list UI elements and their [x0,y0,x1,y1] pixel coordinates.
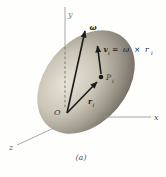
rotation-diagram: y x z O ω v i = ω × r i r i P i (a) [0,0,166,177]
point-p-dot [99,75,104,80]
velocity-equation: = ω × r [112,45,150,54]
point-p-label-subscript: i [112,78,114,84]
z-axis-label: z [8,143,14,152]
position-label-subscript: i [93,102,95,108]
velocity-label-subscript: i [108,50,110,56]
omega-label: ω [90,23,97,32]
x-axis-label: x [154,113,159,122]
point-p-label: P [105,73,112,82]
figure-caption: (a) [75,153,86,162]
figure-container: y x z O ω v i = ω × r i r i P i (a) [0,0,166,177]
y-axis-label: y [67,10,73,19]
velocity-equation-subscript: i [151,50,153,56]
origin-label: O [54,108,61,117]
